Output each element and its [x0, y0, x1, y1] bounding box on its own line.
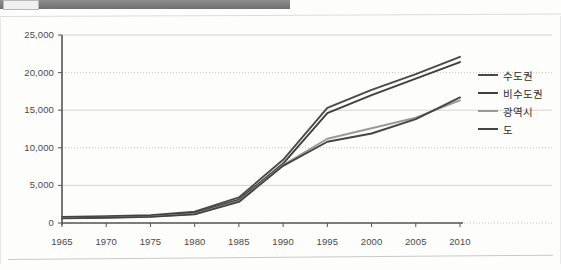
- x-axis-label-2005: 2005: [394, 236, 438, 247]
- legend-item-0[interactable]: 수도권: [478, 66, 543, 84]
- chart-plot-area: 25,00020,00015,00010,0005,0000 196519701…: [0, 0, 561, 270]
- legend-swatch-icon-3: [478, 128, 498, 130]
- legend-swatch-icon-0: [478, 74, 498, 76]
- legend-item-1[interactable]: 비수도권: [478, 84, 543, 102]
- legend-item-3[interactable]: 도: [478, 120, 543, 138]
- y-axis-label-20000: 20,000: [0, 67, 54, 78]
- legend-item-2[interactable]: 광역시: [478, 102, 543, 120]
- x-axis-label-1985: 1985: [217, 236, 261, 247]
- legend-swatch-icon-2: [478, 110, 498, 112]
- legend-label-3: 도: [503, 122, 513, 137]
- x-axis-label-1965: 1965: [40, 236, 84, 247]
- line-chart-svg: [0, 0, 561, 270]
- legend-label-2: 광역시: [503, 104, 533, 119]
- y-axis-label-10000: 10,000: [0, 142, 54, 153]
- y-axis-label-15000: 15,000: [0, 104, 54, 115]
- y-axis-label-25000: 25,000: [0, 29, 54, 40]
- series-line-3: [62, 97, 460, 218]
- x-axis-label-2010: 2010: [438, 236, 482, 247]
- x-axis-label-1990: 1990: [261, 236, 305, 247]
- x-axis-label-1970: 1970: [84, 236, 128, 247]
- chart-legend: 수도권비수도권광역시도: [478, 66, 543, 138]
- x-axis-label-1980: 1980: [173, 236, 217, 247]
- legend-label-0: 수도권: [503, 68, 533, 83]
- x-axis-label-1975: 1975: [128, 236, 172, 247]
- legend-label-1: 비수도권: [503, 86, 543, 101]
- legend-swatch-icon-1: [478, 92, 498, 94]
- chart-page: 25,00020,00015,00010,0005,0000 196519701…: [0, 0, 561, 270]
- y-axis-label-0: 0: [0, 217, 54, 228]
- series-line-2: [62, 100, 460, 218]
- series-line-0: [62, 57, 460, 217]
- x-axis-label-2000: 2000: [350, 236, 394, 247]
- y-axis-label-5000: 5,000: [0, 179, 54, 190]
- x-axis-label-1995: 1995: [305, 236, 349, 247]
- series-line-1: [62, 62, 460, 218]
